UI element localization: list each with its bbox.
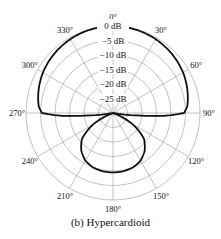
grid-spoke <box>113 113 188 157</box>
angle-tick-label: 240° <box>22 156 38 166</box>
angle-tick-label: 150° <box>153 191 169 201</box>
angle-tick-label: 210° <box>57 191 73 201</box>
angle-tick-label: 330° <box>57 25 73 35</box>
angle-tick-label: 90° <box>203 108 215 118</box>
angle-tick-label: 300° <box>22 60 38 70</box>
grid-spoke <box>113 70 188 114</box>
polar-plot: 0°30°60°90°120°150°180°210°240°270°300°3… <box>0 0 221 239</box>
angle-tick-label: 270° <box>9 108 25 118</box>
radial-tick-label: 0 dB <box>104 21 121 31</box>
angle-tick-label: 30° <box>155 25 167 35</box>
angle-tick-label: 120° <box>188 156 204 166</box>
chart-caption: (b) Hypercardioid <box>0 216 221 228</box>
grid-spoke <box>113 113 157 188</box>
grid-spoke <box>38 70 113 114</box>
angle-tick-label: 60° <box>190 60 202 70</box>
radial-tick-label: −10 dB <box>100 50 127 60</box>
angle-tick-label: 180° <box>105 204 121 214</box>
top-label-gap: 0 dB <box>97 19 129 31</box>
grid-spoke <box>38 113 113 157</box>
radial-tick-label: −15 dB <box>100 65 127 75</box>
radial-tick-label: −25 dB <box>100 94 127 104</box>
grid-spoke <box>70 113 114 188</box>
radial-tick-label: −20 dB <box>100 79 127 89</box>
radial-tick-label: −5 dB <box>102 36 124 46</box>
